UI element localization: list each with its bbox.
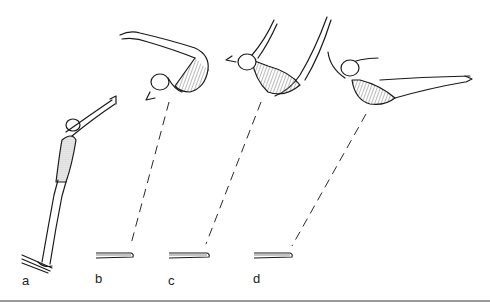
stage-label-d: d xyxy=(253,272,260,285)
springboard-a xyxy=(22,255,52,273)
trajectory-line-d xyxy=(292,114,366,246)
springboard-c xyxy=(169,253,209,258)
springboard-d xyxy=(254,253,292,258)
trajectory-line-b xyxy=(131,102,169,244)
stage-label-b: b xyxy=(95,272,102,285)
stage-label-c: c xyxy=(168,274,175,287)
stage-label-a: a xyxy=(22,274,29,287)
stage-b-diver xyxy=(120,32,208,100)
stage-c-diver xyxy=(226,17,331,96)
stage-a-diver xyxy=(22,96,116,273)
trajectory-line-c xyxy=(206,102,261,244)
trajectory-lines xyxy=(131,102,366,246)
springboard-b xyxy=(96,253,133,258)
stage-d-diver xyxy=(328,52,472,104)
bottom-divider xyxy=(0,300,490,302)
dive-sequence-illustration xyxy=(0,0,490,303)
